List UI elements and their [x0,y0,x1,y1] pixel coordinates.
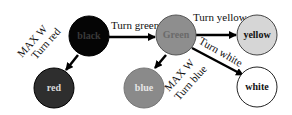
svg-text:red: red [47,82,62,93]
node-green: Green [156,15,196,55]
svg-text:white: white [245,81,269,92]
svg-text:Green: Green [163,29,190,40]
edge-label-turn-green: Turn green [111,19,160,31]
svg-text:yellow: yellow [243,29,271,40]
edge-black-green: Turn green [109,19,160,37]
node-white: white [237,67,277,107]
svg-text:black: black [77,30,101,41]
state-diagram: Turn green MAX W Turn red Turn yellow Tu… [0,0,292,115]
edge-label-turn-yellow: Turn yellow [193,11,247,23]
node-blue: blue [124,68,164,108]
node-red: red [34,68,74,108]
edge-black-red: MAX W Turn red [15,22,78,70]
svg-text:blue: blue [135,82,154,93]
node-yellow: yellow [237,15,277,55]
node-black: black [69,16,109,56]
